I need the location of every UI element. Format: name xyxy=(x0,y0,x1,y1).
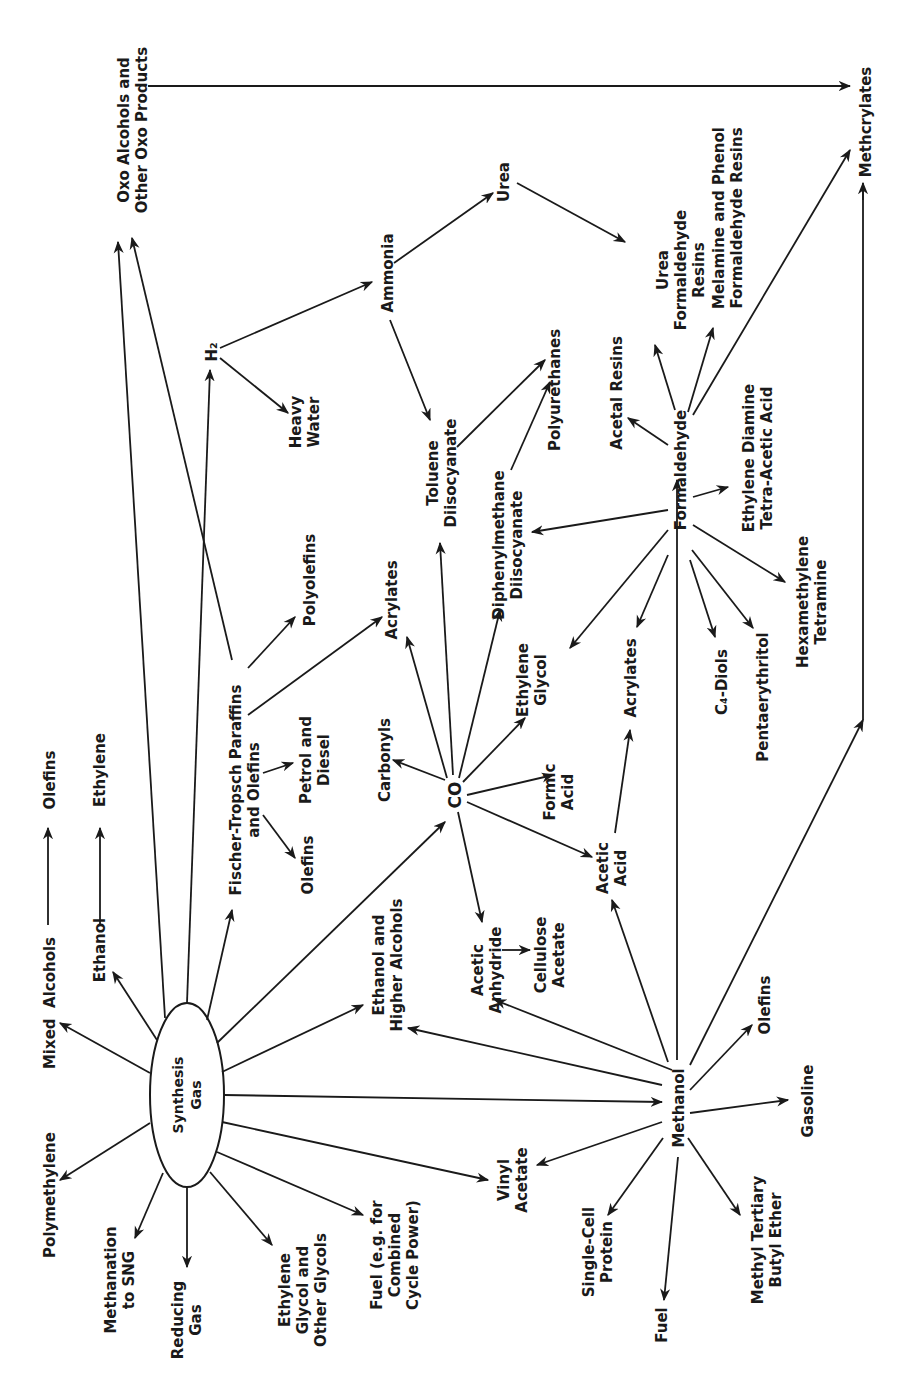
node-olefins-ft: Olefins xyxy=(299,836,317,895)
node-ethylene-glycol: Ethylene Glycol xyxy=(514,643,550,717)
node-acetal-resins: Acetal Resins xyxy=(608,336,626,450)
node-acrylates-co: Acrylates xyxy=(383,560,401,639)
node-heavy-water: Heavy Water xyxy=(287,396,323,448)
node-edta: Ethylene Diamine Tetra-Acetic Acid xyxy=(740,384,776,533)
node-olefins-from-methanol: Olefins xyxy=(756,976,774,1035)
node-polyolefins: Polyolefins xyxy=(301,534,319,627)
node-toluene-diisocyanate: Toluene Diisocyanate xyxy=(424,419,460,528)
node-co: CO xyxy=(446,782,464,809)
node-formaldehyde: Formaldehyde xyxy=(672,410,690,531)
node-urea-formaldehyde-resins: Urea Formaldehyde Resins xyxy=(654,210,708,331)
node-fuel: Fuel xyxy=(653,1307,671,1343)
node-h2: H₂ xyxy=(203,342,221,361)
node-petrol-diesel: Petrol and Diesel xyxy=(297,716,333,804)
node-formic-acid: Formic Acid xyxy=(541,763,577,820)
node-ethylene: Ethylene xyxy=(91,733,109,807)
node-single-cell-protein: Single-Cell Protein xyxy=(580,1207,616,1297)
node-olefins-from-mixed-alcohols: Olefins xyxy=(41,751,59,810)
node-pentaerythritol: Pentaerythritol xyxy=(754,632,772,762)
node-polymethylene: Polymethylene xyxy=(41,1132,59,1258)
node-ethylene-glycol-other-glycols: Ethylene Glycol and Other Glycols xyxy=(276,1233,330,1347)
node-reducing-gas: Reducing Gas xyxy=(169,1281,205,1360)
node-oxo-alcohols: Oxo Alcohols and Other Oxo Products xyxy=(115,47,151,213)
node-acetic-anhydride: Acetic Anhydride xyxy=(469,927,505,1014)
node-polyurethanes: Polyurethanes xyxy=(546,329,564,451)
node-methanation-sng: Methanation to SNG xyxy=(102,1226,138,1333)
node-melamine-phenol-resins: Melamine and Phenol Formaldehyde Resins xyxy=(710,127,746,309)
node-ammonia: Ammonia xyxy=(379,233,397,312)
node-ethanol-higher-alcohols: Ethanol and Higher Alcohols xyxy=(370,899,406,1032)
node-methcrylates: Methcrylates xyxy=(857,67,875,178)
node-synthesis-gas: Synthesis Gas xyxy=(169,1057,205,1134)
diagram-canvas: Synthesis Gas Oxo Alcohols and Other Oxo… xyxy=(0,0,914,1384)
node-diphenylmethane-diisocyanate: Diphenylmethane Diisocyanate xyxy=(490,470,526,619)
node-c4-diols: C₄-Diols xyxy=(713,649,731,715)
node-hexamethylene-tetramine: Hexamethylene Tetramine xyxy=(794,536,830,668)
node-fischer-tropsch: Fischer-Tropsch Paraffins and Olefins xyxy=(227,685,263,896)
node-cellulose-acetate: Cellulose Acetate xyxy=(532,917,568,994)
node-gasoline: Gasoline xyxy=(799,1065,817,1138)
node-carbonyls: Carbonyls xyxy=(376,718,394,802)
node-fuel-combined-cycle: Fuel (e.g. for Combined Cycle Power) xyxy=(368,1200,422,1310)
node-acrylates-formaldehyde: Acrylates xyxy=(622,638,640,717)
node-ethanol: Ethanol xyxy=(91,918,109,982)
node-vinyl-acetate: Vinyl Acetate xyxy=(495,1147,531,1212)
node-mixed-alcohols: Mixed Alcohols xyxy=(41,937,59,1069)
node-urea: Urea xyxy=(495,162,513,202)
node-acetic-acid: Acetic Acid xyxy=(594,842,630,894)
node-mtbe: Methyl Tertiary Butyl Ether xyxy=(749,1176,785,1305)
node-methanol: Methanol xyxy=(670,1068,688,1147)
